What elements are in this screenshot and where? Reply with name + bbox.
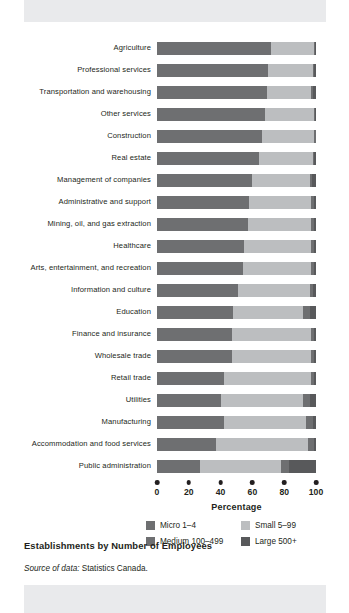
x-axis-tick-label: 0	[155, 487, 160, 497]
stacked-bar	[157, 284, 316, 297]
category-label: Finance and insurance	[24, 329, 157, 339]
bar-segment-large	[289, 460, 316, 473]
decorative-band-top	[24, 0, 326, 22]
bar-segment-large	[314, 218, 316, 231]
bar-segment-small	[221, 394, 304, 407]
x-axis-tick-label: 20	[184, 487, 194, 497]
bar-segment-large	[314, 196, 316, 209]
bar-segment-small	[232, 350, 312, 363]
chart-row: Manufacturing	[24, 411, 326, 433]
bar-segment-micro	[157, 130, 262, 143]
stacked-bar	[157, 460, 316, 473]
figure-source-value: Statistics Canada.	[82, 564, 148, 573]
category-label: Transportation and warehousing	[24, 87, 157, 97]
bar-segment-small	[232, 328, 312, 341]
stacked-bar	[157, 394, 316, 407]
chart-row: Transportation and warehousing	[24, 81, 326, 103]
stacked-bar	[157, 130, 316, 143]
stacked-bar	[157, 218, 316, 231]
x-axis-tick-label: 60	[248, 487, 258, 497]
bar-segment-small	[216, 438, 308, 451]
stacked-bar-chart: AgricultureProfessional servicesTranspor…	[24, 22, 326, 546]
x-axis-tick-dot	[187, 480, 192, 485]
stacked-bar	[157, 152, 316, 165]
bar-segment-micro	[157, 372, 224, 385]
category-label: Agriculture	[24, 43, 157, 53]
category-label: Administrative and support	[24, 197, 157, 207]
bar-segment-micro	[157, 460, 200, 473]
bar-segment-large	[315, 108, 316, 121]
stacked-bar	[157, 350, 316, 363]
bar-segment-small	[224, 372, 311, 385]
bar-segment-large	[314, 372, 316, 385]
chart-row: Construction	[24, 125, 326, 147]
bar-segment-micro	[157, 240, 244, 253]
bar-segment-large	[314, 262, 316, 275]
stacked-bar	[157, 416, 316, 429]
x-axis-tick-dot	[218, 480, 223, 485]
bar-segment-large	[310, 394, 316, 407]
chart-row: Education	[24, 301, 326, 323]
bar-segment-micro	[157, 306, 233, 319]
chart-rows: AgricultureProfessional servicesTranspor…	[24, 22, 326, 477]
category-label: Healthcare	[24, 241, 157, 251]
bar-segment-micro	[157, 328, 232, 341]
stacked-bar	[157, 372, 316, 385]
bar-segment-micro	[157, 86, 267, 99]
x-axis-tick-label: 80	[279, 487, 289, 497]
chart-row: Arts, entertainment, and recreation	[24, 257, 326, 279]
chart-row: Wholesale trade	[24, 345, 326, 367]
bar-segment-large	[314, 64, 316, 77]
chart-row: Healthcare	[24, 235, 326, 257]
bar-segment-small	[252, 174, 309, 187]
category-label: Other services	[24, 109, 157, 119]
category-label: Management of companies	[24, 175, 157, 185]
bar-segment-small	[265, 108, 314, 121]
figure-page: AgricultureProfessional servicesTranspor…	[0, 0, 349, 613]
chart-row: Real estate	[24, 147, 326, 169]
legend-label: Micro 1–4	[160, 521, 196, 530]
bar-segment-small	[271, 42, 314, 55]
chart-row: Other services	[24, 103, 326, 125]
bar-segment-large	[312, 174, 316, 187]
bar-segment-micro	[157, 64, 268, 77]
bar-segment-micro	[157, 394, 221, 407]
bar-segment-micro	[157, 350, 232, 363]
chart-row: Finance and insurance	[24, 323, 326, 345]
bar-segment-small	[249, 196, 311, 209]
bar-segment-large	[313, 416, 316, 429]
chart-row: Information and culture	[24, 279, 326, 301]
bar-segment-small	[248, 218, 312, 231]
category-label: Accommodation and food services	[24, 439, 157, 449]
x-axis-tick-dot	[314, 480, 319, 485]
chart-row: Professional services	[24, 59, 326, 81]
bar-segment-small	[262, 130, 314, 143]
x-axis-tick-dot	[155, 480, 160, 485]
bar-segment-large	[314, 240, 316, 253]
bar-segment-large	[313, 86, 316, 99]
stacked-bar	[157, 328, 316, 341]
category-label: Education	[24, 307, 157, 317]
bar-segment-micro	[157, 284, 238, 297]
bar-segment-small	[259, 152, 313, 165]
x-axis-tick-dot	[250, 480, 255, 485]
legend-item: Micro 1–4	[146, 521, 237, 530]
figure-source-prefix: Source of data:	[24, 564, 80, 573]
stacked-bar	[157, 42, 316, 55]
category-label: Manufacturing	[24, 417, 157, 427]
legend-label: Small 5–99	[255, 521, 296, 530]
bar-segment-small	[244, 240, 311, 253]
bar-segment-small	[267, 86, 312, 99]
legend-swatch-icon	[241, 521, 250, 530]
legend-item: Small 5–99	[241, 521, 332, 530]
x-axis-tick-label: 40	[216, 487, 226, 497]
bar-segment-large	[314, 328, 316, 341]
category-label: Arts, entertainment, and recreation	[24, 263, 157, 273]
chart-row: Utilities	[24, 389, 326, 411]
category-label: Construction	[24, 131, 157, 141]
bar-segment-micro	[157, 196, 249, 209]
bar-segment-medium	[281, 460, 289, 473]
bar-segment-micro	[157, 416, 224, 429]
category-label: Mining, oil, and gas extraction	[24, 219, 157, 229]
category-label: Utilities	[24, 395, 157, 405]
